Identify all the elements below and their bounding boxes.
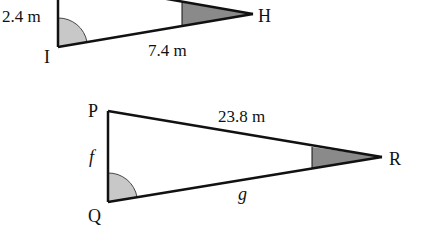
label-side-vertical: 2.4 m <box>2 7 41 26</box>
label-side-pr: 23.8 m <box>218 107 265 126</box>
triangle-top <box>58 0 253 47</box>
label-vertex-r: R <box>389 149 401 169</box>
label-side-qr: g <box>238 184 247 204</box>
label-vertex-i: I <box>44 47 50 67</box>
triangle-diagram: 2.4 m I H 7.4 m P Q R 23.8 m f g <box>0 0 424 242</box>
label-vertex-p: P <box>88 101 98 121</box>
label-side-pq: f <box>89 147 97 167</box>
angle-h-marker <box>182 2 253 26</box>
label-side-ih: 7.4 m <box>148 41 187 60</box>
label-vertex-h: H <box>258 6 271 26</box>
label-vertex-q: Q <box>88 206 101 226</box>
